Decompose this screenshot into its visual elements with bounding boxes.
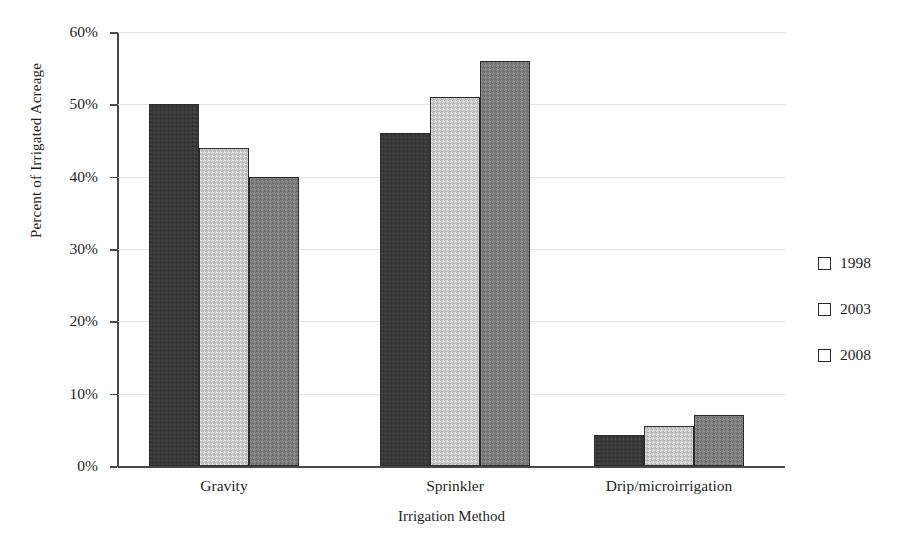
legend: 199820032008 (818, 240, 871, 378)
x-axis-category-label: Gravity (200, 477, 247, 495)
x-axis-category-label: Drip/microirrigation (606, 477, 733, 495)
legend-swatch-icon-1998 (818, 257, 831, 270)
y-axis-tick-label: 60% (28, 24, 110, 40)
y-axis-tick-label: 20% (28, 314, 110, 330)
y-axis-tick-mark (110, 321, 117, 323)
y-axis-tick-label: 10% (28, 386, 110, 402)
bar-1998-gravity (149, 104, 199, 466)
y-axis-tick-mark (110, 249, 117, 251)
y-axis-tick-mark (110, 104, 117, 106)
bar-2003-drip-microirrigation (644, 426, 694, 467)
legend-item-1998[interactable]: 1998 (818, 240, 871, 286)
bar-1998-drip-microirrigation (594, 435, 644, 466)
bar-2008-sprinkler (480, 61, 530, 466)
y-axis-tick-mark (110, 394, 117, 396)
legend-item-2008[interactable]: 2008 (818, 332, 871, 378)
legend-swatch-icon-2003 (818, 303, 831, 316)
legend-item-2003[interactable]: 2003 (818, 286, 871, 332)
legend-label: 2008 (840, 346, 871, 364)
bar-2008-gravity (249, 177, 299, 466)
y-axis-tick-mark (110, 177, 117, 179)
legend-label: 2003 (840, 300, 871, 318)
legend-swatch-icon-2008 (818, 349, 831, 362)
x-axis-baseline (118, 466, 785, 468)
plot-area (118, 32, 785, 466)
y-axis-tick-mark (110, 466, 117, 468)
bar-chart-figure: Percent of Irrigated Acreage 0%10%20%30%… (0, 0, 906, 555)
x-axis-category-label: Sprinkler (426, 477, 484, 495)
y-axis-tick-label: 30% (28, 241, 110, 257)
bar-2003-gravity (199, 148, 249, 466)
x-axis-title: Irrigation Method (118, 508, 785, 525)
bar-2003-sprinkler (430, 97, 480, 466)
gridline (118, 32, 785, 33)
legend-label: 1998 (840, 254, 871, 272)
y-axis-tick-label: 0% (28, 458, 110, 474)
y-axis-tick-label: 50% (28, 97, 110, 113)
bar-2008-drip-microirrigation (694, 415, 744, 466)
y-axis-title: Percent of Irrigated Acreage (28, 41, 45, 261)
y-axis-tick-label: 40% (28, 169, 110, 185)
bar-1998-sprinkler (380, 133, 430, 466)
y-axis-tick-mark (110, 32, 117, 34)
